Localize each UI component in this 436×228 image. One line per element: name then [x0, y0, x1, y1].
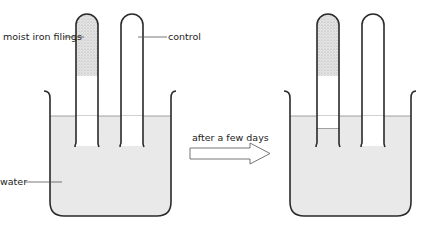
after-a-few-days-arrow: after a few days: [190, 132, 270, 164]
after-setup: [284, 14, 416, 216]
control-tube-after: [361, 14, 385, 147]
label-control: control: [168, 31, 201, 42]
rusting-experiment-diagram: moist iron filings control water after a…: [0, 0, 436, 228]
label-moist-iron-filings: moist iron filings: [3, 31, 82, 42]
label-water: water: [0, 176, 27, 187]
control-tube-before: [120, 14, 144, 147]
water-right: [290, 116, 411, 216]
iron-filings-tube-after: [316, 14, 340, 147]
label-after-a-few-days: after a few days: [192, 132, 269, 143]
arrow-right-icon: [190, 143, 270, 164]
water-left: [50, 116, 171, 216]
before-setup: [44, 14, 176, 216]
